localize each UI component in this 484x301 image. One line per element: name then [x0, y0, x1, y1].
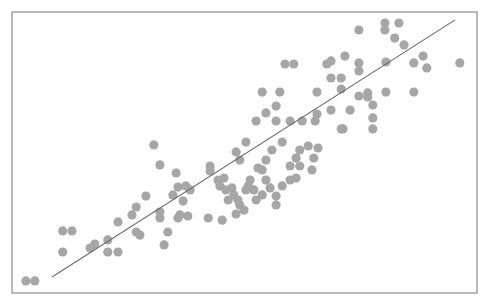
- data-point: [67, 226, 76, 235]
- data-point: [155, 213, 164, 222]
- data-point: [409, 58, 418, 67]
- data-point: [258, 88, 267, 97]
- data-point: [346, 106, 355, 115]
- data-point: [163, 227, 172, 236]
- data-point: [278, 138, 287, 147]
- data-point: [339, 124, 348, 133]
- data-point: [295, 161, 304, 170]
- data-point: [368, 124, 377, 133]
- data-point: [258, 190, 267, 199]
- data-point: [58, 226, 67, 235]
- data-point: [272, 102, 281, 111]
- plot-background: [0, 0, 484, 301]
- data-point: [289, 59, 298, 68]
- data-point: [132, 202, 141, 211]
- data-point: [204, 213, 213, 222]
- data-point: [249, 185, 258, 194]
- data-point: [179, 197, 188, 206]
- data-point: [292, 154, 301, 163]
- data-point: [219, 174, 228, 183]
- data-point: [304, 141, 313, 150]
- data-point: [272, 192, 281, 201]
- data-point: [409, 88, 418, 97]
- data-point: [368, 113, 377, 122]
- data-point: [354, 58, 363, 67]
- data-point: [232, 209, 241, 218]
- data-point: [160, 240, 169, 249]
- data-point: [419, 52, 428, 61]
- data-point: [241, 138, 250, 147]
- data-point: [286, 116, 295, 125]
- data-point: [218, 216, 227, 225]
- data-point: [368, 100, 377, 109]
- data-point: [103, 247, 112, 256]
- data-point: [337, 73, 346, 82]
- data-point: [267, 145, 276, 154]
- data-point: [141, 192, 150, 201]
- data-point: [399, 40, 408, 49]
- data-point: [390, 34, 399, 43]
- data-point: [309, 154, 318, 163]
- data-point: [326, 56, 335, 65]
- data-point: [354, 25, 363, 34]
- data-point: [261, 108, 270, 117]
- data-point: [135, 231, 144, 240]
- data-point: [455, 58, 464, 67]
- data-point: [261, 156, 270, 165]
- data-point: [224, 195, 233, 204]
- data-point: [280, 59, 289, 68]
- data-point: [232, 147, 241, 156]
- data-point: [363, 92, 372, 101]
- scatter-chart: [0, 0, 484, 301]
- data-point: [380, 25, 389, 34]
- data-point: [127, 210, 136, 219]
- data-point: [278, 181, 287, 190]
- data-point: [30, 276, 39, 285]
- data-point: [286, 161, 295, 170]
- data-point: [21, 276, 30, 285]
- data-point: [312, 109, 321, 118]
- data-point: [354, 91, 363, 100]
- data-point: [183, 211, 192, 220]
- data-point: [326, 106, 335, 115]
- data-point: [272, 200, 281, 209]
- data-point: [312, 88, 321, 97]
- data-point: [173, 183, 182, 192]
- data-point: [292, 174, 301, 183]
- data-point: [354, 66, 363, 75]
- data-point: [173, 213, 182, 222]
- data-point: [155, 160, 164, 169]
- data-point: [258, 165, 267, 174]
- data-point: [266, 183, 275, 192]
- data-point: [340, 52, 349, 61]
- data-point: [272, 116, 281, 125]
- data-point: [58, 247, 67, 256]
- data-point: [172, 168, 181, 177]
- data-point: [295, 145, 304, 154]
- data-point: [113, 247, 122, 256]
- data-point: [113, 217, 122, 226]
- data-point: [239, 206, 248, 215]
- data-point: [422, 63, 431, 72]
- data-point: [313, 143, 322, 152]
- data-point: [149, 140, 158, 149]
- data-point: [326, 73, 335, 82]
- data-point: [394, 18, 403, 27]
- data-point: [252, 116, 261, 125]
- data-point: [307, 165, 316, 174]
- data-point: [261, 175, 270, 184]
- data-point: [275, 88, 284, 97]
- data-point: [381, 88, 390, 97]
